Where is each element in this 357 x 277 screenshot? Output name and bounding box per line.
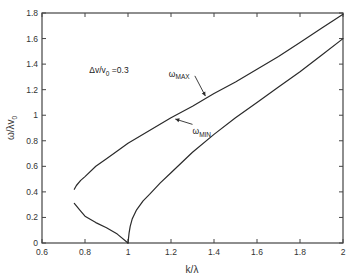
x-tick-label: 1 [126, 247, 131, 257]
x-tick-label: 2 [341, 247, 346, 257]
y-axis-ticks: 00.20.40.60.811.21.41.61.8 [26, 8, 343, 248]
y-tick-label: 1.4 [26, 59, 38, 69]
label-min: ωMIN [193, 126, 212, 138]
dispersion-chart: 0.60.811.21.41.61.82 00.20.40.60.811.21.… [0, 0, 357, 277]
y-tick-label: 1.2 [26, 85, 38, 95]
y-tick-label: 0 [33, 238, 38, 248]
x-tick-label: 0.8 [79, 247, 91, 257]
y-axis-label: ω/λv0 [5, 116, 18, 141]
curve--max [74, 14, 343, 189]
x-tick-label: 1.6 [251, 247, 263, 257]
param-annotation: Δv/v0 =0.3 [89, 65, 129, 77]
y-tick-label: 1.6 [26, 34, 38, 44]
y-tick-label: 1.8 [26, 8, 38, 18]
y-tick-label: 0.6 [26, 161, 38, 171]
x-axis-ticks: 0.60.811.21.41.61.82 [36, 13, 346, 257]
annotations: Δv/v0 =0.3ωMAXωMIN [89, 65, 211, 138]
curve--min-k-1-branch [74, 203, 128, 243]
y-tick-label: 1 [33, 110, 38, 120]
y-tick-label: 0.8 [26, 136, 38, 146]
x-tick-label: 1.8 [294, 247, 306, 257]
x-tick-label: 0.6 [36, 247, 48, 257]
x-axis-label: k/λ [186, 264, 199, 275]
y-tick-label: 0.4 [26, 187, 38, 197]
x-tick-label: 1.4 [208, 247, 220, 257]
x-tick-label: 1.2 [165, 247, 177, 257]
curves [74, 14, 343, 243]
curve--min [128, 39, 343, 243]
y-tick-label: 0.2 [26, 212, 38, 222]
label-max: ωMAX [169, 69, 190, 81]
